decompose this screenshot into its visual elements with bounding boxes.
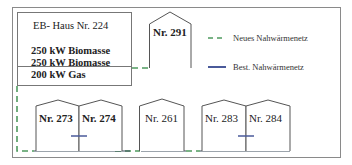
house-284: Nr. 284	[246, 100, 290, 151]
house-261: Nr. 261	[140, 99, 185, 151]
house-label-273: Nr. 273	[39, 112, 73, 124]
plant-info-box: EB- Haus Nr. 224 250 kW Biomasse 250 kW …	[18, 13, 132, 81]
house-label-274: Nr. 274	[82, 112, 116, 124]
plant-line-3: 200 kW Gas	[31, 69, 86, 80]
legend-item-existing-network: Best. Nahwärmenetz	[208, 62, 304, 72]
heating-network-diagram: EB- Haus Nr. 224 250 kW Biomasse 250 kW …	[0, 0, 352, 165]
house-label-283: Nr. 283	[205, 112, 239, 124]
house-label-284: Nr. 284	[249, 112, 283, 124]
house-274: Nr. 274	[79, 100, 122, 151]
house-273: Nr. 273	[36, 100, 79, 151]
plant-line-1: 250 kW Biomasse	[31, 45, 110, 56]
legend-item-new-network: Neues Nahwärmenetz	[208, 33, 308, 43]
plant-title: EB- Haus Nr. 224	[33, 20, 109, 31]
house-label-261: Nr. 261	[145, 112, 178, 124]
legend-label-new-network: Neues Nahwärmenetz	[233, 33, 308, 43]
legend: Neues Nahwärmenetz Best. Nahwärmenetz	[208, 33, 308, 72]
house-283: Nr. 283	[202, 100, 246, 151]
plant-line-2: 250 kW Biomasse	[31, 57, 110, 68]
house-label-291: Nr. 291	[153, 26, 187, 38]
house-291: Nr. 291	[150, 12, 192, 68]
legend-label-existing-network: Best. Nahwärmenetz	[233, 62, 304, 72]
